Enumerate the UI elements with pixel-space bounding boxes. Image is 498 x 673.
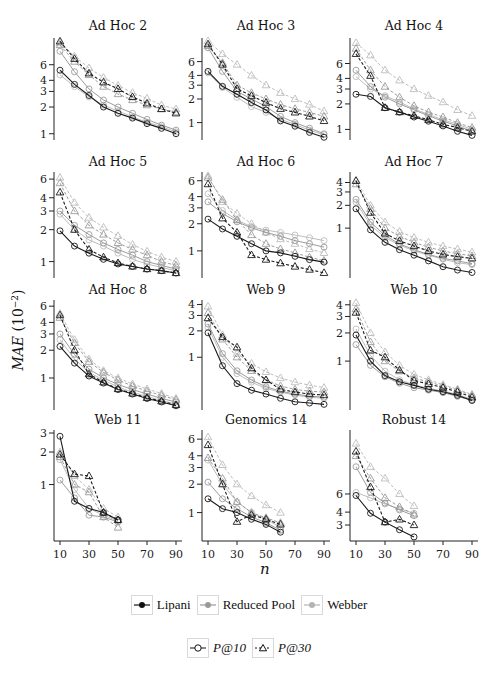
legend-key-p30 bbox=[252, 638, 274, 658]
triangle-marker bbox=[381, 474, 389, 481]
y-axis-label: MAE (10−2) bbox=[10, 289, 27, 370]
panel-robust-14: Robust 143461030507090 bbox=[336, 412, 479, 561]
x-tick-label: 50 bbox=[407, 548, 421, 561]
triangle-marker bbox=[114, 524, 122, 531]
triangle-marker bbox=[158, 253, 166, 260]
panel-ad-hoc-3: Ad Hoc 312346 bbox=[188, 18, 328, 140]
y-tick-label: 4 bbox=[336, 299, 343, 312]
y-tick-label: 2 bbox=[188, 218, 195, 231]
x-tick-label: 70 bbox=[140, 548, 154, 561]
series-line bbox=[60, 457, 118, 528]
x-axis-label: n bbox=[260, 560, 270, 578]
x-tick-label: 10 bbox=[53, 548, 67, 561]
x-tick-label: 30 bbox=[230, 548, 244, 561]
y-tick-label: 4 bbox=[40, 74, 47, 87]
y-tick-label: 6 bbox=[336, 488, 343, 501]
y-tick-label: 6 bbox=[40, 59, 47, 72]
y-tick-label: 3 bbox=[188, 462, 195, 475]
legend-label-reduced-pool: Reduced Pool bbox=[223, 597, 296, 613]
panel-title: Web 10 bbox=[390, 282, 437, 297]
panel-web-10: Web 101234 bbox=[336, 282, 476, 410]
triangle-marker bbox=[129, 246, 137, 253]
legend-key-reduced-pool bbox=[197, 595, 219, 615]
legend-label-p10: P@10 bbox=[213, 640, 246, 656]
y-tick-label: 2 bbox=[40, 101, 47, 114]
series-line bbox=[208, 48, 324, 134]
y-tick-label: 1 bbox=[336, 355, 343, 368]
y-tick-label: 4 bbox=[188, 298, 195, 311]
y-tick-label: 3 bbox=[336, 519, 343, 532]
series-line bbox=[208, 460, 281, 527]
y-tick-label: 6 bbox=[40, 173, 47, 186]
panel-title: Ad Hoc 7 bbox=[384, 154, 443, 169]
triangle-marker bbox=[320, 117, 328, 124]
x-tick-label: 10 bbox=[349, 548, 363, 561]
triangle-marker bbox=[71, 199, 79, 206]
y-axis-label-unit: (10 bbox=[10, 308, 26, 331]
legend-label-p30: P@30 bbox=[278, 640, 311, 656]
y-tick-label: 1 bbox=[40, 128, 47, 141]
y-tick-label: 1 bbox=[188, 245, 195, 258]
panel-title: Genomics 14 bbox=[225, 412, 307, 427]
y-tick-label: 2 bbox=[40, 344, 47, 357]
x-tick-label: 30 bbox=[82, 548, 96, 561]
series-line bbox=[208, 499, 281, 532]
y-tick-label: 6 bbox=[188, 433, 195, 446]
triangle-marker bbox=[248, 251, 256, 258]
panel-web-11: Web 111231030507090 bbox=[40, 412, 183, 561]
y-axis-label-main: MAE bbox=[10, 336, 26, 371]
x-tick-label: 50 bbox=[111, 548, 125, 561]
y-tick-label: 4 bbox=[336, 176, 343, 189]
x-tick-label: 10 bbox=[201, 548, 215, 561]
legend-measures: P@10 P@30 bbox=[0, 638, 498, 658]
x-tick-label: 90 bbox=[317, 548, 331, 561]
y-tick-label: 3 bbox=[40, 328, 47, 341]
y-tick-label: 6 bbox=[40, 300, 47, 313]
series-line bbox=[60, 43, 176, 109]
x-tick-label: 70 bbox=[288, 548, 302, 561]
small-multiples-figure: Ad Hoc 212346Ad Hoc 312346Ad Hoc 412346A… bbox=[0, 0, 498, 590]
y-tick-label: 3 bbox=[40, 427, 47, 440]
legend-item-webber[interactable]: Webber bbox=[301, 595, 367, 615]
triangle-marker bbox=[352, 439, 360, 446]
legend-key-p10 bbox=[187, 638, 209, 658]
panel-title: Ad Hoc 6 bbox=[236, 154, 295, 169]
panel-ad-hoc-5: Ad Hoc 512346 bbox=[40, 154, 180, 278]
series-line bbox=[60, 41, 176, 113]
panel-title: Ad Hoc 2 bbox=[88, 18, 147, 33]
legend-item-reduced-pool[interactable]: Reduced Pool bbox=[197, 595, 296, 615]
x-tick-label: 70 bbox=[436, 548, 450, 561]
panel-ad-hoc-7: Ad Hoc 71234 bbox=[336, 154, 476, 278]
panel-web-9: Web 91234 bbox=[188, 282, 328, 410]
panel-title: Robust 14 bbox=[382, 412, 446, 427]
y-tick-label: 4 bbox=[188, 450, 195, 463]
legend-methods: Lipani Reduced Pool Webber bbox=[0, 595, 498, 615]
y-axis-label-exp: −2 bbox=[10, 295, 20, 308]
triangle-marker bbox=[410, 521, 418, 528]
series-line bbox=[60, 452, 118, 517]
x-tick-label: 30 bbox=[378, 548, 392, 561]
triangle-marker bbox=[204, 302, 212, 309]
series-line bbox=[60, 454, 118, 520]
y-tick-label: 6 bbox=[336, 58, 343, 71]
triangle-marker bbox=[129, 89, 137, 96]
legend-label-lipani: Lipani bbox=[157, 597, 191, 613]
triangle-marker bbox=[204, 433, 212, 440]
x-tick-label: 90 bbox=[465, 548, 479, 561]
legend-item-p30[interactable]: P@30 bbox=[252, 638, 311, 658]
y-tick-label: 4 bbox=[188, 69, 195, 82]
y-tick-label: 3 bbox=[336, 310, 343, 323]
triangle-marker bbox=[262, 240, 270, 247]
panel-title: Web 9 bbox=[246, 282, 285, 297]
y-tick-label: 2 bbox=[188, 325, 195, 338]
triangle-marker bbox=[396, 515, 404, 522]
series-line bbox=[356, 70, 472, 131]
legend-key-lipani bbox=[131, 595, 153, 615]
legend-item-lipani[interactable]: Lipani bbox=[131, 595, 191, 615]
series-line bbox=[356, 43, 472, 116]
y-tick-label: 3 bbox=[40, 85, 47, 98]
triangle-marker bbox=[262, 368, 270, 375]
x-axis-label-text: n bbox=[260, 560, 270, 578]
y-tick-label: 2 bbox=[188, 93, 195, 106]
legend-item-p10[interactable]: P@10 bbox=[187, 638, 246, 658]
